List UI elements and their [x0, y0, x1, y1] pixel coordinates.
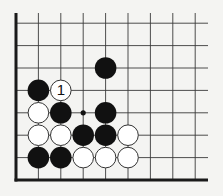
white-stone — [73, 147, 94, 168]
markers-layer — [81, 110, 86, 115]
black-stone — [95, 57, 117, 79]
white-stone — [28, 103, 49, 124]
black-stone — [95, 102, 117, 124]
black-stone — [50, 147, 72, 169]
black-stone — [72, 124, 94, 146]
black-stone — [28, 147, 50, 169]
white-stone — [95, 147, 116, 168]
black-stone — [28, 80, 50, 102]
point-marker-dot — [81, 110, 86, 115]
white-stone — [51, 125, 72, 146]
black-stone — [50, 102, 72, 124]
white-stone — [118, 125, 139, 146]
white-stone — [28, 125, 49, 146]
white-stone — [118, 147, 139, 168]
black-stone — [95, 124, 117, 146]
go-board-diagram: 1 — [0, 0, 223, 196]
move-number-label: 1 — [57, 81, 65, 98]
